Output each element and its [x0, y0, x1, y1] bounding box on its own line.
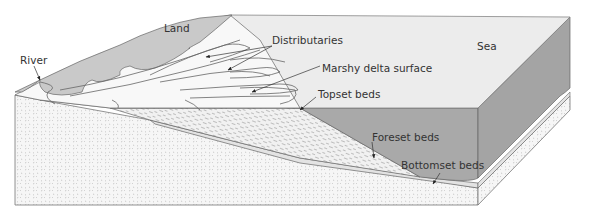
label-land: Land — [164, 22, 190, 34]
label-bottomset-beds: Bottomset beds — [401, 159, 484, 171]
label-marshy-delta-surface: Marshy delta surface — [322, 62, 432, 74]
label-foreset-beds: Foreset beds — [372, 131, 439, 143]
river-leader — [34, 66, 40, 80]
label-distributaries: Distributaries — [272, 34, 343, 46]
label-sea: Sea — [477, 40, 497, 52]
delta-block-diagram: Land River Distributaries Marshy delta s… — [0, 0, 590, 217]
label-river: River — [20, 54, 48, 66]
label-topset-beds: Topset beds — [317, 88, 380, 100]
